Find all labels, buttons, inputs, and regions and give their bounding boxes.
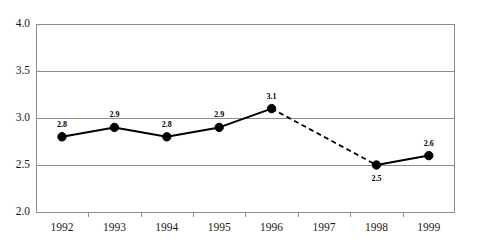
data-point-label-1996: 3.1 <box>267 92 277 101</box>
data-point-marker-1993 <box>110 123 118 131</box>
x-axis-label-1997: 1997 <box>313 221 336 233</box>
chart-canvas: 2.02.53.03.54.0 199219931994199519961997… <box>0 0 478 250</box>
y-axis-label-2.0: 2.0 <box>16 205 31 217</box>
x-axis-label-1996: 1996 <box>260 221 283 233</box>
data-point-marker-1996 <box>267 104 275 112</box>
x-axis-label-1999: 1999 <box>417 221 440 233</box>
x-axis-label-1994: 1994 <box>155 221 178 233</box>
x-axis-label-1992: 1992 <box>51 221 74 233</box>
x-axis-label-1995: 1995 <box>208 221 231 233</box>
data-point-label-1998: 2.5 <box>371 174 381 183</box>
data-point-label-1994: 2.8 <box>162 120 172 129</box>
data-point-label-1999: 2.6 <box>424 139 434 148</box>
data-point-marker-1999 <box>425 151 433 159</box>
x-axis-label-1993: 1993 <box>103 221 126 233</box>
y-axis-label-3.0: 3.0 <box>16 111 31 123</box>
data-point-label-1995: 2.9 <box>214 110 224 119</box>
data-point-label-1993: 2.9 <box>109 110 119 119</box>
data-point-label-1992: 2.8 <box>57 120 67 129</box>
line-chart: 2.02.53.03.54.0 199219931994199519961997… <box>0 0 478 250</box>
x-axis-label-1998: 1998 <box>365 221 388 233</box>
data-point-marker-1995 <box>215 123 223 131</box>
data-point-marker-1994 <box>163 133 171 141</box>
y-axis-label-2.5: 2.5 <box>16 158 31 170</box>
y-axis-label-4.0: 4.0 <box>16 17 31 29</box>
data-point-marker-1992 <box>58 133 66 141</box>
data-point-marker-1998 <box>372 161 380 169</box>
y-axis-label-3.5: 3.5 <box>16 64 31 76</box>
